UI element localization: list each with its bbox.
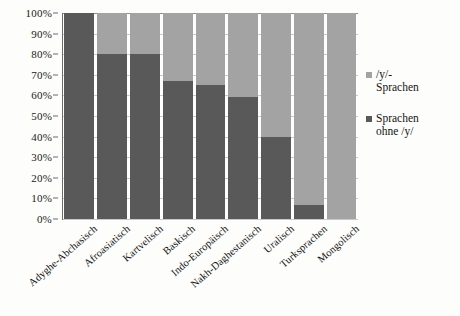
legend-entry: Sprachen ohne /y/ [366, 112, 458, 138]
bar-slot [196, 13, 226, 219]
chart-legend: /y/- SprachenSprachen ohne /y/ [366, 68, 458, 156]
bar-slot [130, 13, 160, 219]
legend-label: Sprachen ohne /y/ [376, 112, 419, 138]
y-axis-tick-mark [53, 136, 58, 137]
bar-slot [228, 13, 258, 219]
y-axis-tick-mark [53, 177, 58, 178]
y-axis-tick-label: 80% [31, 48, 52, 60]
y-axis-tick-mark [53, 157, 58, 158]
legend-label: /y/- Sprachen [376, 68, 419, 94]
y-axis-tick-mark [53, 74, 58, 75]
y-axis-tick-mark [53, 13, 58, 14]
y-axis-tick-mark [53, 198, 58, 199]
y-axis-tick-label: 100% [26, 7, 52, 19]
y-axis-tick-label: 60% [31, 89, 52, 101]
y-axis-tick-label: 0% [37, 213, 52, 225]
bar-segment-y-sprachen [327, 13, 357, 219]
gridline [63, 219, 358, 220]
bar-segment-y-sprachen [261, 13, 291, 137]
bar-segment-sprachen-ohne-y [97, 54, 127, 219]
y-axis-tick-label: 10% [31, 192, 52, 204]
legend-swatch-icon [366, 116, 372, 122]
bar-segment-y-sprachen [294, 13, 324, 205]
y-axis-tick-label: 20% [31, 172, 52, 184]
y-axis-tick-mark [53, 33, 58, 34]
bar-segment-sprachen-ohne-y [196, 85, 226, 219]
y-axis-tick-label: 50% [31, 110, 52, 122]
y-axis-tick-label: 40% [31, 131, 52, 143]
stacked-bar-chart: 100%90%80%70%60%50%40%30%20%10%0% Adyghe… [0, 0, 460, 316]
bar-slot [97, 13, 127, 219]
bar-slot [163, 13, 193, 219]
bar-slot [261, 13, 291, 219]
bar-segment-y-sprachen [228, 13, 258, 97]
bar-segment-sprachen-ohne-y [261, 137, 291, 219]
bar-segment-sprachen-ohne-y [294, 205, 324, 219]
x-axis: Adyghe-AbchasischAfroasiatischKartvelisc… [62, 221, 357, 313]
bar-slot [327, 13, 357, 219]
bar-segment-sprachen-ohne-y [163, 81, 193, 219]
y-axis-tick-label: 90% [31, 28, 52, 40]
bar-segment-y-sprachen [163, 13, 193, 81]
legend-swatch-icon [366, 72, 372, 78]
bar-segment-y-sprachen [196, 13, 226, 85]
y-axis-tick-label: 70% [31, 69, 52, 81]
bar-segment-sprachen-ohne-y [130, 54, 160, 219]
bar-slot [294, 13, 324, 219]
y-axis: 100%90%80%70%60%50%40%30%20%10%0% [0, 13, 58, 219]
bar-group [63, 13, 358, 219]
y-axis-tick-mark [53, 219, 58, 220]
plot-area [62, 13, 358, 220]
y-axis-tick-label: 30% [31, 151, 52, 163]
y-axis-tick-mark [53, 116, 58, 117]
y-axis-tick-mark [53, 54, 58, 55]
bar-segment-y-sprachen [130, 13, 160, 54]
bar-segment-y-sprachen [97, 13, 127, 54]
bar-slot [64, 13, 94, 219]
legend-entry: /y/- Sprachen [366, 68, 458, 94]
bar-segment-sprachen-ohne-y [64, 13, 94, 219]
y-axis-tick-mark [53, 95, 58, 96]
bar-segment-sprachen-ohne-y [228, 97, 258, 219]
